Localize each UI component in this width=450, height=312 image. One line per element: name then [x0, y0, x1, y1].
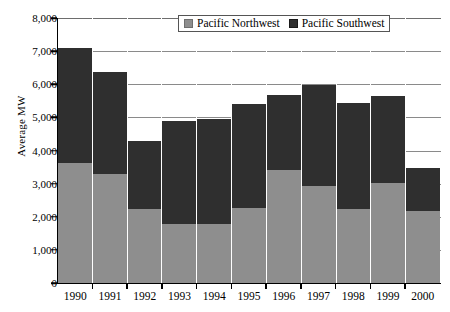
bar-segment-pacific-northwest — [302, 186, 336, 283]
y-axis-tick-label: 6,000 — [9, 78, 57, 90]
bar-column — [58, 18, 93, 283]
x-axis-tick-label: 1993 — [162, 290, 197, 302]
bar-segment-pacific-southwest — [267, 95, 301, 170]
bar-segment-pacific-northwest — [337, 209, 371, 283]
bar-segment-pacific-southwest — [337, 103, 371, 209]
legend-swatch-north — [184, 19, 193, 28]
x-axis-tick-label: 2000 — [405, 290, 440, 302]
x-axis-tick-mark — [405, 283, 440, 290]
x-axis-tick-mark — [232, 283, 267, 290]
x-axis-tick-mark — [301, 283, 336, 290]
legend-swatch-south — [289, 19, 298, 28]
bar-series-group — [58, 18, 440, 283]
x-axis-tick-label: 1996 — [266, 290, 301, 302]
legend-label: Pacific Northwest — [197, 17, 280, 29]
bar-segment-pacific-southwest — [93, 72, 127, 174]
bar-segment-pacific-southwest — [197, 119, 231, 224]
x-axis-tick-label: 1990 — [58, 290, 93, 302]
x-axis-tick-marks — [58, 283, 440, 290]
x-axis-tick-mark — [197, 283, 232, 290]
legend-label: Pacific Southwest — [302, 17, 385, 29]
bar-column — [267, 18, 302, 283]
y-axis-tick-label: 7,000 — [9, 45, 57, 57]
bar-segment-pacific-northwest — [267, 170, 301, 283]
y-axis-tick-label: 4,000 — [9, 145, 57, 157]
legend-entry: Pacific Northwest — [184, 17, 280, 29]
bar-segment-pacific-southwest — [302, 85, 336, 186]
bar-segment-pacific-southwest — [162, 121, 196, 224]
x-axis-tick-mark — [58, 283, 93, 290]
bar-segment-pacific-southwest — [128, 141, 162, 210]
x-axis-tick-mark — [162, 283, 197, 290]
x-axis-tick-mark — [336, 283, 371, 290]
bar-column — [302, 18, 337, 283]
bar-segment-pacific-northwest — [128, 209, 162, 283]
bar-segment-pacific-northwest — [58, 163, 92, 283]
bar-segment-pacific-northwest — [406, 211, 440, 283]
bar-segment-pacific-northwest — [371, 183, 405, 283]
x-axis-tick-mark — [371, 283, 406, 290]
bar-segment-pacific-southwest — [371, 96, 405, 183]
legend-entry: Pacific Southwest — [289, 17, 385, 29]
bar-segment-pacific-southwest — [58, 48, 92, 163]
bar-column — [162, 18, 197, 283]
x-axis-tick-label: 1995 — [232, 290, 267, 302]
bar-segment-pacific-northwest — [197, 224, 231, 283]
bar-segment-pacific-northwest — [232, 208, 266, 283]
y-axis-tick-label: 5,000 — [9, 111, 57, 123]
bar-column — [128, 18, 163, 283]
bar-column — [93, 18, 128, 283]
x-axis-tick-label: 1994 — [197, 290, 232, 302]
stacked-bar-chart: Average MW 8,0007,0006,0005,0004,0003,00… — [0, 0, 450, 312]
x-axis-tick-mark — [93, 283, 128, 290]
x-axis-tick-label: 1998 — [336, 290, 371, 302]
x-axis-tick-label: 1999 — [371, 290, 406, 302]
bar-segment-pacific-northwest — [162, 224, 196, 283]
bar-column — [197, 18, 232, 283]
y-axis-tick-label: 2,000 — [9, 211, 57, 223]
y-axis-tick-label: 8,000 — [9, 12, 57, 24]
chart-legend: Pacific NorthwestPacific Southwest — [178, 15, 390, 32]
bar-column — [406, 18, 440, 283]
bar-column — [371, 18, 406, 283]
x-axis-tick-labels: 1990199119921993199419951996199719981999… — [58, 290, 440, 302]
x-axis-tick-label: 1997 — [301, 290, 336, 302]
y-axis-tick-label: 1,000 — [9, 244, 57, 256]
bar-column — [337, 18, 372, 283]
x-axis-tick-label: 1991 — [93, 290, 128, 302]
x-axis-tick-label: 1992 — [127, 290, 162, 302]
x-axis-tick-mark — [266, 283, 301, 290]
y-axis-tick-label: 3,000 — [9, 178, 57, 190]
x-axis-tick-mark — [127, 283, 162, 290]
bar-segment-pacific-southwest — [406, 168, 440, 211]
y-axis-tick-label: 0 — [9, 277, 57, 289]
y-axis-tick-labels: 8,0007,0006,0005,0004,0003,0002,0001,000… — [0, 0, 57, 312]
bar-segment-pacific-southwest — [232, 104, 266, 208]
bar-column — [232, 18, 267, 283]
bar-segment-pacific-northwest — [93, 174, 127, 283]
